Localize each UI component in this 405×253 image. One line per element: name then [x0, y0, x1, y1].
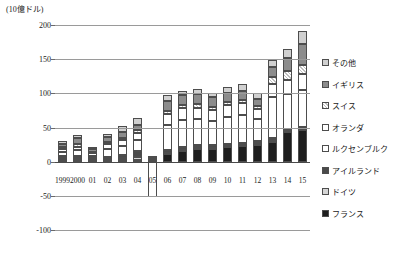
- bar-segment: [283, 71, 292, 80]
- gridline-150: [55, 59, 310, 60]
- gridline-200: [55, 25, 310, 26]
- bar-segment: [238, 103, 247, 115]
- bar-segment: [73, 158, 82, 160]
- bar-segment: [283, 49, 292, 58]
- legend-swatch-icon: [322, 167, 329, 174]
- bar-segment: [88, 156, 97, 159]
- legend-item-イギリス[interactable]: イギリス: [322, 74, 404, 96]
- bar-segment: [208, 107, 217, 110]
- bar-segment: [298, 129, 307, 131]
- bar-segment: [223, 144, 232, 146]
- bar-segment: [133, 118, 142, 125]
- legend-item-フランス[interactable]: フランス: [322, 203, 404, 225]
- bar-segment: [88, 158, 97, 160]
- x-tick-05: 05: [149, 176, 157, 185]
- bar-segment: [103, 149, 112, 157]
- x-tick-04: 04: [134, 176, 142, 185]
- legend-item-ルクセンブルク[interactable]: ルクセンブルク: [322, 138, 404, 160]
- bar-segment: [148, 156, 157, 158]
- bar-segment: [178, 108, 187, 120]
- legend-item-その他[interactable]: その他: [322, 52, 404, 74]
- x-tick-13: 13: [269, 176, 277, 185]
- bar-segment: [208, 148, 217, 150]
- legend-item-スイス[interactable]: スイス: [322, 95, 404, 117]
- bar-segment: [178, 120, 187, 147]
- bar-segment: [223, 87, 232, 92]
- bar-segment: [283, 131, 292, 133]
- bar-segment: [193, 149, 202, 162]
- y-tickmark: [51, 128, 55, 129]
- bar-segment: [58, 156, 67, 158]
- bar-segment: [253, 106, 262, 109]
- bar-segment: [298, 74, 307, 90]
- bar-segment: [73, 138, 82, 144]
- legend-item-ドイツ[interactable]: ドイツ: [322, 181, 404, 203]
- bar-segment: [133, 151, 142, 156]
- x-tick-03: 03: [119, 176, 127, 185]
- legend-swatch-icon: [322, 59, 329, 66]
- y-tick-200: 200: [39, 21, 51, 30]
- bar-segment: [223, 147, 232, 161]
- y-tickmark: [51, 230, 55, 231]
- legend-swatch-icon: [322, 81, 329, 88]
- legend-swatch-icon: [322, 124, 329, 131]
- legend-label: オランダ: [332, 122, 364, 133]
- legend-item-アイルランド[interactable]: アイルランド: [322, 160, 404, 182]
- y-tickmark: [51, 162, 55, 163]
- bar-segment: [208, 110, 217, 121]
- bar-segment: [193, 104, 202, 107]
- bar-segment: [103, 144, 112, 149]
- bar-segment: [268, 97, 277, 138]
- x-tick-15: 15: [299, 176, 307, 185]
- bar-segment: [133, 140, 142, 152]
- x-tick-07: 07: [179, 176, 187, 185]
- bar-segment: [238, 91, 247, 101]
- legend-item-オランダ[interactable]: オランダ: [322, 117, 404, 139]
- x-tick-10: 10: [224, 176, 232, 185]
- bar-segment: [253, 119, 262, 142]
- y-axis-tick-labels: 200150100500-50-100: [0, 25, 51, 230]
- bar-segment: [298, 31, 307, 44]
- x-tick-01: 01: [89, 176, 97, 185]
- bar-segment: [238, 100, 247, 103]
- bar-segment: [223, 102, 232, 105]
- legend-swatch-icon: [322, 188, 329, 195]
- bar-segment: [58, 158, 67, 160]
- x-tick-11: 11: [239, 176, 246, 185]
- bar-segment: [208, 149, 217, 161]
- bar-segment: [253, 145, 262, 162]
- bar-segment: [283, 132, 292, 161]
- bar-segment: [88, 152, 97, 154]
- bar-segment: [253, 143, 262, 145]
- y-tick-50: 50: [43, 123, 51, 132]
- bar-segment: [103, 157, 112, 159]
- bar-segment: [103, 142, 112, 144]
- y-tickmark: [51, 196, 55, 197]
- bar-segment: [238, 143, 247, 145]
- legend-label: フランス: [332, 208, 364, 219]
- x-tick-2000: 2000: [70, 176, 85, 185]
- bar-segment: [238, 146, 247, 162]
- bar-segment: [268, 140, 277, 142]
- gridline-0: [55, 162, 310, 163]
- legend-label: その他: [332, 57, 356, 68]
- bar-segment: [58, 144, 67, 147]
- bar-segment: [238, 84, 247, 91]
- bar-segment: [283, 80, 292, 94]
- x-axis-tick-labels: 19992000010203040506070809101112131415: [55, 176, 310, 190]
- bar-segment: [58, 141, 67, 144]
- bar-segment: [268, 60, 277, 68]
- y-axis-unit-label: (10億ドル): [6, 3, 43, 14]
- bar-segment: [163, 114, 172, 126]
- bar-segment: [58, 147, 67, 149]
- legend-label: ルクセンブルク: [332, 143, 388, 154]
- bar-segment: [133, 130, 142, 133]
- legend-swatch-icon: [322, 210, 329, 217]
- bar-segment: [223, 146, 232, 148]
- bar-segment: [298, 44, 307, 65]
- legend-swatch-icon: [322, 102, 329, 109]
- bar-segment: [163, 95, 172, 101]
- bar-segment: [223, 117, 232, 144]
- x-tick-09: 09: [209, 176, 217, 185]
- bar-segment: [163, 154, 172, 162]
